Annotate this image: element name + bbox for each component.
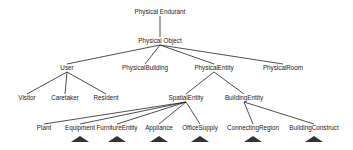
tree-node-visitor[interactable]: Visitor (18, 95, 35, 101)
edge-user-visitor (27, 72, 67, 94)
tree-node-connecting-region[interactable]: ConnectingRegion (227, 125, 279, 131)
collapsed-subtree-triangle-icon[interactable] (108, 136, 126, 142)
tree-node-physical-building[interactable]: PhysicalBuilding (122, 65, 168, 71)
edge-user-resident (67, 72, 106, 94)
collapsed-subtree-triangle-icon[interactable] (191, 136, 209, 142)
tree-node-resident[interactable]: Resident (94, 95, 119, 101)
edge-physical_entity-spatial_entity (186, 72, 214, 94)
edge-building_entity-building_construct (244, 102, 314, 124)
tree-node-appliance[interactable]: Appliance (145, 125, 173, 131)
edge-physical_object-physical_room (160, 45, 283, 64)
tree-node-physical-object[interactable]: Physical Object (138, 38, 181, 44)
edge-spatial_entity-furniture_entity (117, 102, 186, 124)
edge-building_entity-connecting_region (244, 102, 253, 124)
tree-node-furniture-entity[interactable]: FurnitureEntity (97, 125, 138, 131)
edge-spatial_entity-office_supply (186, 102, 200, 124)
tree-node-user[interactable]: User (60, 65, 73, 71)
edge-physical_entity-building_entity (214, 72, 244, 94)
edge-user-caretaker (65, 72, 67, 94)
collapsed-subtree-triangle-icon[interactable] (244, 136, 262, 142)
tree-node-office-supply[interactable]: OfficeSupply (182, 125, 218, 131)
collapsed-subtree-triangle-icon[interactable] (305, 136, 323, 142)
tree-node-spatial-entity[interactable]: SpatialEntity (168, 95, 203, 101)
tree-node-physical-endurant[interactable]: Physical Endurant (135, 9, 186, 15)
tree-node-building-construct[interactable]: BuildingConstruct (289, 125, 338, 131)
tree-node-equipment[interactable]: Equipment (65, 125, 95, 131)
tree-node-physical-entity[interactable]: PhysicalEntity (194, 65, 233, 71)
tree-node-physical-room[interactable]: PhysicalRoom (263, 65, 303, 71)
edge-physical_object-physical_entity (160, 45, 214, 64)
collapsed-subtree-triangle-icon[interactable] (150, 136, 168, 142)
tree-node-plant[interactable]: Plant (37, 125, 51, 131)
edge-physical_object-user (67, 45, 160, 64)
collapsed-subtree-triangle-icon[interactable] (71, 136, 89, 142)
tree-node-building-entity[interactable]: BuildingEntity (225, 95, 263, 101)
tree-node-caretaker[interactable]: Caretaker (51, 95, 79, 101)
edge-spatial_entity-equipment (80, 102, 186, 124)
edge-spatial_entity-plant (44, 102, 186, 124)
